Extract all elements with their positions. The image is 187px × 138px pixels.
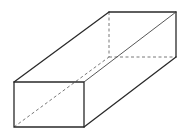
visible-edges	[14, 12, 176, 127]
edge-bottom-right-depth	[84, 57, 176, 127]
edge-top-left-depth	[14, 12, 109, 82]
cuboid-diagram	[0, 0, 187, 138]
edge-top-right-depth	[84, 12, 176, 82]
cuboid-svg	[0, 0, 187, 138]
hidden-edge-bottom-left-depth	[14, 57, 109, 127]
hidden-edges	[14, 12, 176, 127]
front-face	[14, 82, 84, 127]
